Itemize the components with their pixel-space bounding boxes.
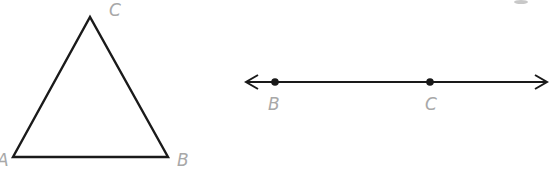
- geometry-diagram: A B C B C: [0, 0, 557, 175]
- vertex-label-b: B: [177, 152, 189, 169]
- vertex-label-a: A: [0, 152, 9, 169]
- diagram-svg: [0, 0, 557, 175]
- point-c-dot: [426, 78, 434, 86]
- line-point-label-c: C: [425, 96, 437, 113]
- line-point-label-b: B: [268, 96, 280, 113]
- line-bc: [246, 75, 547, 89]
- partial-glyph-edge: [514, 0, 528, 4]
- point-b-dot: [271, 78, 279, 86]
- triangle-abc: [13, 17, 168, 157]
- vertex-label-c: C: [109, 2, 121, 19]
